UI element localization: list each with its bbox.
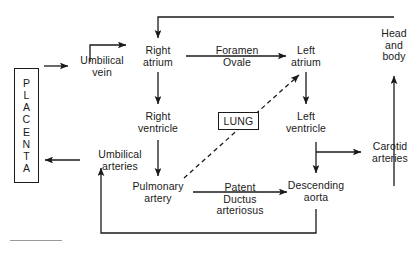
placenta-letter-4: C — [23, 113, 31, 125]
placenta-letter-7: T — [23, 150, 30, 162]
fetal-circulation-diagram: P L A C E N T A LUNG Umbilical vein Umbi… — [0, 0, 420, 256]
edge-descending-aorta-to-umbilical-arteries — [101, 168, 316, 233]
node-placenta: P L A C E N T A — [14, 68, 39, 183]
placenta-letter-6: N — [23, 138, 31, 150]
placenta-letter-8: A — [23, 162, 30, 174]
placenta-vertical-letters: P L A C E N T A — [23, 77, 31, 175]
placenta-letter-2: L — [23, 89, 29, 101]
diagram-connectors — [0, 0, 420, 256]
footer-rule — [10, 240, 62, 241]
node-lung: LUNG — [218, 112, 259, 130]
placenta-letter-5: E — [23, 126, 30, 138]
edge-head-and-body-to-right-atrium — [158, 17, 394, 38]
placenta-letter-3: A — [23, 101, 30, 113]
edge-umbilical-vein-to-right-atrium — [90, 45, 126, 62]
placenta-letter-1: P — [23, 77, 30, 89]
